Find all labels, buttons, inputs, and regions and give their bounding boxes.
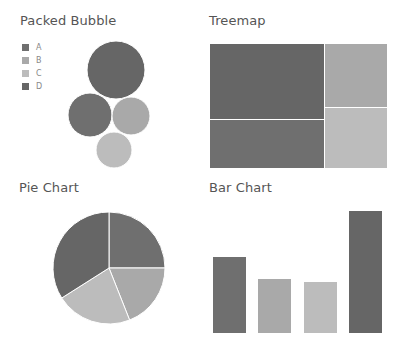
- charts-canvas: [0, 0, 402, 354]
- treemap-cell-c[interactable]: [325, 108, 387, 168]
- bar-d[interactable]: [349, 211, 382, 333]
- bar-b[interactable]: [258, 279, 291, 333]
- pie-slice-a[interactable]: [109, 212, 165, 268]
- treemap-cell-d[interactable]: [210, 44, 324, 119]
- treemap-chart: [210, 44, 387, 168]
- bubble-c[interactable]: [96, 132, 132, 168]
- bar-a[interactable]: [213, 257, 246, 333]
- bubble-d[interactable]: [87, 41, 145, 99]
- pie-chart: [53, 212, 165, 324]
- bubble-b[interactable]: [112, 97, 150, 135]
- treemap-cell-b[interactable]: [325, 44, 387, 107]
- packed-bubble-chart: [68, 41, 150, 168]
- bar-chart: [213, 211, 382, 333]
- bubble-a[interactable]: [68, 93, 112, 137]
- treemap-cell-a[interactable]: [210, 120, 324, 168]
- bar-c[interactable]: [304, 282, 337, 333]
